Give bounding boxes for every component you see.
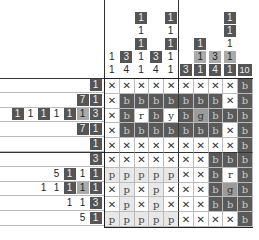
cell-b[interactable]: b bbox=[120, 109, 135, 124]
cell-b[interactable]: b bbox=[209, 168, 224, 183]
cell-b[interactable]: b bbox=[209, 153, 224, 168]
cell-crossed[interactable] bbox=[164, 197, 179, 212]
cell-crossed[interactable] bbox=[194, 197, 209, 212]
cell-crossed[interactable] bbox=[194, 138, 209, 153]
cell-crossed[interactable] bbox=[149, 79, 164, 94]
cell-b[interactable]: b bbox=[223, 153, 238, 168]
cell-crossed[interactable] bbox=[223, 123, 238, 138]
cell-crossed[interactable] bbox=[105, 79, 120, 94]
cell-b[interactable]: b bbox=[194, 123, 209, 138]
cell-b[interactable]: b bbox=[149, 109, 164, 124]
cell-p[interactable]: p bbox=[135, 168, 150, 183]
cell-crossed[interactable] bbox=[179, 138, 194, 153]
cell-crossed[interactable] bbox=[164, 138, 179, 153]
cell-p[interactable]: p bbox=[164, 168, 179, 183]
cell-crossed[interactable] bbox=[209, 138, 224, 153]
cell-b[interactable]: b bbox=[194, 94, 209, 109]
cell-crossed[interactable] bbox=[149, 153, 164, 168]
cell-b[interactable]: b bbox=[135, 94, 150, 109]
cell-crossed[interactable] bbox=[135, 79, 150, 94]
cell-crossed[interactable] bbox=[223, 138, 238, 153]
cell-b[interactable]: b bbox=[238, 153, 253, 168]
cell-crossed[interactable] bbox=[135, 183, 150, 198]
cell-crossed[interactable] bbox=[179, 153, 194, 168]
cell-crossed[interactable] bbox=[194, 212, 209, 227]
cell-crossed[interactable] bbox=[209, 212, 224, 227]
cell-g[interactable]: g bbox=[194, 109, 209, 124]
cell-b[interactable]: b bbox=[135, 123, 150, 138]
cell-crossed[interactable] bbox=[105, 109, 120, 124]
cell-crossed[interactable] bbox=[164, 79, 179, 94]
cell-b[interactable]: b bbox=[209, 123, 224, 138]
cell-b[interactable]: b bbox=[223, 197, 238, 212]
cell-b[interactable]: b bbox=[238, 94, 253, 109]
cell-crossed[interactable] bbox=[120, 153, 135, 168]
cell-p[interactable]: p bbox=[105, 212, 120, 227]
cell-crossed[interactable] bbox=[105, 197, 120, 212]
cell-crossed[interactable] bbox=[149, 138, 164, 153]
cell-p[interactable]: p bbox=[120, 197, 135, 212]
cell-p[interactable]: p bbox=[120, 183, 135, 198]
cell-crossed[interactable] bbox=[135, 153, 150, 168]
cell-b[interactable]: b bbox=[209, 109, 224, 124]
cell-b[interactable]: b bbox=[164, 94, 179, 109]
puzzle-grid[interactable]: bbbbbbbbbbrbybgbbbbbbbbbbbbbbbpppppbrbpp… bbox=[104, 78, 253, 228]
cell-b[interactable]: b bbox=[149, 123, 164, 138]
cell-p[interactable]: p bbox=[149, 197, 164, 212]
cell-b[interactable]: b bbox=[223, 109, 238, 124]
cell-crossed[interactable] bbox=[164, 153, 179, 168]
cell-b[interactable]: b bbox=[238, 168, 253, 183]
cell-crossed[interactable] bbox=[105, 123, 120, 138]
cell-p[interactable]: p bbox=[120, 168, 135, 183]
cell-b[interactable]: b bbox=[179, 123, 194, 138]
cell-crossed[interactable] bbox=[194, 183, 209, 198]
cell-crossed[interactable] bbox=[223, 212, 238, 227]
cell-r[interactable]: r bbox=[135, 109, 150, 124]
cell-r[interactable]: r bbox=[223, 168, 238, 183]
cell-crossed[interactable] bbox=[135, 138, 150, 153]
cell-p[interactable]: p bbox=[120, 212, 135, 227]
cell-crossed[interactable] bbox=[135, 197, 150, 212]
cell-crossed[interactable] bbox=[194, 168, 209, 183]
cell-p[interactable]: p bbox=[135, 212, 150, 227]
cell-p[interactable]: p bbox=[105, 168, 120, 183]
cell-crossed[interactable] bbox=[223, 79, 238, 94]
cell-crossed[interactable] bbox=[120, 138, 135, 153]
cell-b[interactable]: b bbox=[209, 94, 224, 109]
cell-b[interactable]: b bbox=[149, 94, 164, 109]
cell-crossed[interactable] bbox=[164, 183, 179, 198]
cell-b[interactable]: b bbox=[120, 123, 135, 138]
cell-crossed[interactable] bbox=[120, 79, 135, 94]
cell-b[interactable]: b bbox=[120, 94, 135, 109]
cell-crossed[interactable] bbox=[179, 79, 194, 94]
cell-crossed[interactable] bbox=[105, 94, 120, 109]
cell-b[interactable]: b bbox=[209, 197, 224, 212]
cell-crossed[interactable] bbox=[105, 138, 120, 153]
cell-b[interactable]: b bbox=[179, 94, 194, 109]
cell-crossed[interactable] bbox=[194, 153, 209, 168]
cell-b[interactable]: b bbox=[238, 183, 253, 198]
cell-crossed[interactable] bbox=[179, 212, 194, 227]
cell-b[interactable]: b bbox=[238, 109, 253, 124]
cell-y[interactable]: y bbox=[164, 109, 179, 124]
cell-g[interactable]: g bbox=[223, 183, 238, 198]
cell-crossed[interactable] bbox=[194, 79, 209, 94]
cell-crossed[interactable] bbox=[179, 183, 194, 198]
cell-b[interactable]: b bbox=[209, 183, 224, 198]
cell-b[interactable]: b bbox=[238, 197, 253, 212]
cell-b[interactable]: b bbox=[238, 212, 253, 227]
cell-p[interactable]: p bbox=[164, 212, 179, 227]
cell-p[interactable]: p bbox=[149, 183, 164, 198]
cell-crossed[interactable] bbox=[179, 168, 194, 183]
cell-b[interactable]: b bbox=[179, 109, 194, 124]
cell-crossed[interactable] bbox=[179, 197, 194, 212]
cell-b[interactable]: b bbox=[238, 138, 253, 153]
cell-crossed[interactable] bbox=[209, 79, 224, 94]
cell-p[interactable]: p bbox=[149, 212, 164, 227]
cell-b[interactable]: b bbox=[164, 123, 179, 138]
cell-crossed[interactable] bbox=[105, 183, 120, 198]
cell-crossed[interactable] bbox=[105, 153, 120, 168]
cell-b[interactable]: b bbox=[238, 79, 253, 94]
cell-b[interactable]: b bbox=[238, 123, 253, 138]
cell-crossed[interactable] bbox=[223, 94, 238, 109]
